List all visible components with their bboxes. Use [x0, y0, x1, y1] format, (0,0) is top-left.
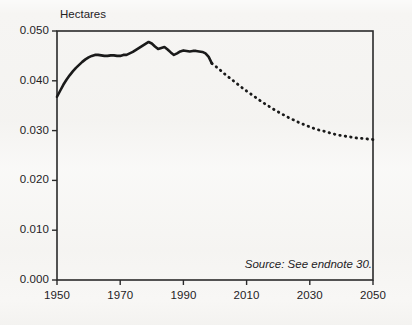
- chart-figure: Hectares Source: See endnote 30. 0.0000.…: [0, 0, 412, 325]
- chart-canvas: [0, 0, 412, 325]
- y-axis-tick-label: 0.010: [3, 223, 49, 235]
- x-axis-tick-label: 2010: [224, 289, 270, 301]
- plot-frame: [57, 31, 373, 280]
- series-line-projection: [212, 63, 373, 139]
- x-axis-tick-label: 1970: [97, 289, 143, 301]
- y-axis-tick-label: 0.000: [3, 273, 49, 285]
- x-axis-tick-label: 1990: [160, 289, 206, 301]
- y-axis-tick-label: 0.040: [3, 74, 49, 86]
- x-axis-tick-label: 2050: [350, 289, 396, 301]
- y-axis-tick-label: 0.050: [3, 24, 49, 36]
- y-axis-tick-label: 0.020: [3, 173, 49, 185]
- series-line-historical: [57, 42, 212, 97]
- x-axis-tick-label: 2030: [287, 289, 333, 301]
- x-axis-tick-label: 1950: [34, 289, 80, 301]
- y-axis-tick-label: 0.030: [3, 124, 49, 136]
